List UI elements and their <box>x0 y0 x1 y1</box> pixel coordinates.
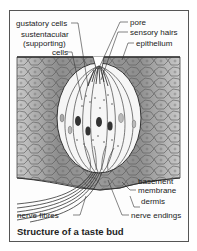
label-dermis: dermis <box>141 197 165 206</box>
label-basement: basement <box>138 177 173 186</box>
label-nerve-endings: nerve endings <box>131 211 181 220</box>
label-nerve-fibres: nerve fibres <box>17 211 59 220</box>
label-cells: cells <box>52 48 68 57</box>
label-pore: pore <box>130 18 146 27</box>
label-gustatory-cells: gustatory cells <box>16 19 67 28</box>
label-epithelium: epithelium <box>136 39 172 48</box>
diagram-title: Structure of a taste bud <box>17 226 124 237</box>
label-sustentacular: sustentacular <box>21 30 69 39</box>
label-supporting: (supporting) <box>23 39 66 48</box>
label-membrane: membrane <box>138 186 176 195</box>
label-sensory-hairs: sensory hairs <box>130 28 178 37</box>
